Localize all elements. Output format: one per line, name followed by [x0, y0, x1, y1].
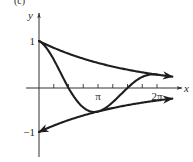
x-axis-label: x [183, 82, 189, 94]
y-tick-label: 1 [30, 35, 36, 47]
y-tick-label: −1 [23, 126, 35, 138]
damped-oscillation-chart: (c) x y π2π1−1 [0, 0, 193, 162]
panel-label: (c) [14, 0, 25, 7]
x-tick-label: π [95, 90, 101, 102]
y-axis-label: y [27, 9, 33, 21]
lower-envelope-curve [39, 99, 172, 132]
curves [39, 41, 172, 132]
